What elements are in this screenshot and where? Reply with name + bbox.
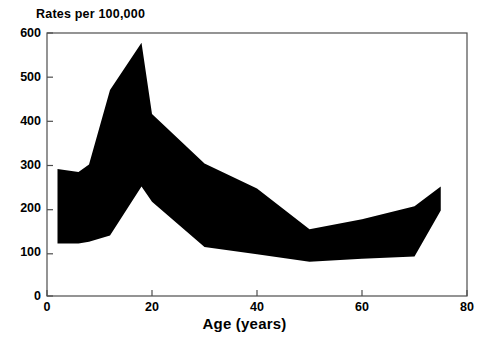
chart-plot-area [0,0,489,346]
x-tick-marks [47,290,467,296]
chart-figure: Rates per 100,000 0100200300400500600 02… [0,0,489,346]
chart-axis-title-x: Age (years) [0,315,489,332]
data-band-area [58,43,441,262]
chart-axis-title-y: Rates per 100,000 [36,7,145,21]
y-tick-marks [47,33,53,296]
